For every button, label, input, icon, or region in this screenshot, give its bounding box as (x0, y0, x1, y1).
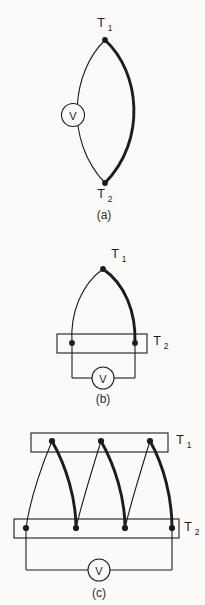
fig-b-cold-junction-dot-left (69, 340, 75, 346)
fig-c-hot-bar-label-sub: 1 (187, 440, 192, 450)
fig-a-caption: (a) (97, 208, 112, 222)
fig-a-voltmeter-symbol: V (69, 110, 77, 122)
page-background (0, 0, 205, 605)
fig-b-voltmeter-symbol: V (99, 373, 107, 385)
fig-a-hot-junction-dot (102, 37, 108, 43)
fig-a-hot-junction-label-text: T (97, 16, 105, 30)
fig-a-cold-junction-label-text: T (97, 187, 105, 201)
fig-a-cold-junction-dot (102, 180, 108, 186)
fig-c-cold-bar-label-sub: 2 (195, 527, 200, 537)
fig-c-hot-junction-dot-3 (147, 438, 153, 444)
fig-b-hot-junction-label-sub: 1 (122, 254, 127, 264)
fig-b-cold-junction-dot-right (132, 340, 138, 346)
fig-c-cold-junction-dot-3 (122, 525, 128, 531)
figure-sheet: V T 1 T 2 (a) V (0, 0, 205, 605)
fig-c-cold-junction-dot-2 (73, 525, 79, 531)
fig-c-hot-junction-dot-1 (49, 438, 55, 444)
fig-c-cold-bar-label-text: T (184, 520, 192, 534)
fig-b-hot-junction-dot (100, 266, 106, 272)
fig-c-hot-junction-dot-2 (98, 438, 104, 444)
fig-a-cold-junction-label-sub: 2 (108, 194, 113, 204)
fig-b-caption: (b) (96, 392, 111, 406)
fig-c-voltmeter-symbol: V (95, 565, 103, 577)
fig-a-hot-junction-label-sub: 1 (108, 23, 113, 33)
thermocouple-diagram-svg: V T 1 T 2 (a) V (0, 0, 205, 605)
fig-c-hot-bar-label-text: T (176, 433, 184, 447)
fig-b-cold-block-label-text: T (153, 334, 161, 348)
fig-b-cold-block-label-sub: 2 (164, 341, 169, 351)
fig-b-hot-junction-label-text: T (111, 247, 119, 261)
fig-c-caption: (c) (92, 586, 106, 600)
